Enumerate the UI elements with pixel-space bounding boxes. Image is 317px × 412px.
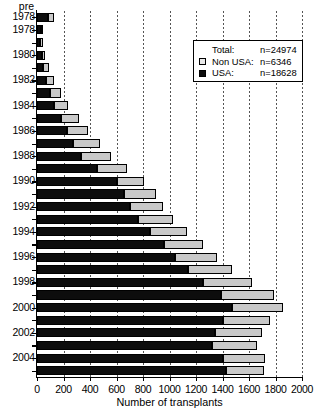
bar-segment-non-usa <box>223 354 265 363</box>
bar-segment-non-usa <box>54 101 68 110</box>
bar-row <box>37 253 302 262</box>
bar-segment-usa <box>37 316 223 325</box>
legend-value-total: n=24974 <box>260 44 297 56</box>
y-axis-label: 1978 <box>1 24 35 35</box>
y-axis-label: 1982 <box>1 74 35 85</box>
bar-segment-usa <box>37 202 130 211</box>
bar-row <box>37 227 302 236</box>
bar-row <box>37 290 302 299</box>
bar-segment-usa <box>37 253 175 262</box>
legend: Total: n=24974 Non USA: n=6346 USA: n=18… <box>193 40 303 82</box>
bar-row <box>37 303 302 312</box>
legend-row-non-usa: Non USA: n=6346 <box>198 56 298 68</box>
bar-segment-usa <box>37 265 188 274</box>
x-axis-tick <box>90 377 91 381</box>
y-axis-label: 2000 <box>1 302 35 313</box>
bar-segment-non-usa <box>124 189 155 198</box>
bar-segment-non-usa <box>215 328 261 337</box>
bar-segment-usa <box>37 139 73 148</box>
legend-label-total: Total: <box>212 44 234 56</box>
bar-segment-non-usa <box>67 126 88 135</box>
y-axis-tick <box>32 181 37 182</box>
legend-label-usa: USA: <box>212 67 234 79</box>
x-axis-tick <box>302 377 303 381</box>
bar-segment-non-usa <box>48 13 55 22</box>
bar-segment-non-usa <box>73 139 100 148</box>
bar-segment-usa <box>37 76 46 85</box>
bar-row <box>37 101 302 110</box>
legend-swatch-usa-icon <box>199 70 206 77</box>
x-axis-tick-label: 2000 <box>282 383 317 395</box>
y-axis-label: 1994 <box>1 226 35 237</box>
bar-row <box>37 25 302 34</box>
bar-segment-usa <box>37 366 226 375</box>
bar-segment-non-usa <box>138 215 174 224</box>
bar-row <box>37 215 302 224</box>
bar-row <box>37 202 302 211</box>
y-axis-label: 1992 <box>1 201 35 212</box>
bar-row <box>37 177 302 186</box>
y-axis-tick <box>32 333 37 334</box>
bar-segment-usa <box>37 114 61 123</box>
y-axis-tick <box>32 156 37 157</box>
bar-segment-non-usa <box>81 152 111 161</box>
x-axis-tick <box>64 377 65 381</box>
bar-segment-non-usa <box>46 76 54 85</box>
bar-segment-non-usa <box>41 25 43 34</box>
legend-row-usa: USA: n=18628 <box>198 67 298 79</box>
y-axis-tick <box>32 207 37 208</box>
bar-row <box>37 164 302 173</box>
bar-segment-usa <box>37 341 212 350</box>
bar-segment-non-usa <box>221 290 273 299</box>
bar-segment-non-usa <box>40 38 42 47</box>
bar-segment-usa <box>37 227 150 236</box>
y-axis-label: 2004 <box>1 352 35 363</box>
bar-row <box>37 189 302 198</box>
bar-row <box>37 265 302 274</box>
bar-segment-non-usa <box>130 202 163 211</box>
y-axis-tick <box>32 118 37 119</box>
bar-segment-usa <box>37 215 138 224</box>
bar-segment-usa <box>37 126 67 135</box>
y-axis-tick <box>32 30 37 31</box>
bar-segment-usa <box>37 278 203 287</box>
y-axis-tick <box>32 93 37 94</box>
x-axis-tick <box>196 377 197 381</box>
bar-segment-non-usa <box>150 227 187 236</box>
y-axis-tick <box>32 308 37 309</box>
bar-segment-usa <box>37 303 232 312</box>
y-axis-tick <box>32 345 37 346</box>
x-axis-tick <box>117 377 118 381</box>
bar-row <box>37 328 302 337</box>
y-axis-tick <box>32 358 37 359</box>
y-axis-tick <box>32 55 37 56</box>
bar-segment-usa <box>37 13 48 22</box>
y-axis-tick <box>32 144 37 145</box>
bar-segment-usa <box>37 240 164 249</box>
bar-row <box>37 114 302 123</box>
x-axis-tick <box>223 377 224 381</box>
bar-segment-non-usa <box>117 177 145 186</box>
legend-swatch-non-usa-icon <box>199 58 206 65</box>
y-axis-tick <box>32 295 37 296</box>
x-axis-tick <box>170 377 171 381</box>
bar-segment-non-usa <box>188 265 232 274</box>
y-axis-label: 1988 <box>1 150 35 161</box>
bar-row <box>37 13 302 22</box>
y-axis-tick <box>32 131 37 132</box>
bar-segment-usa <box>37 189 124 198</box>
bar-row <box>37 139 302 148</box>
legend-row-total: Total: n=24974 <box>198 44 298 56</box>
bar-segment-usa <box>37 290 221 299</box>
y-axis-tick <box>32 270 37 271</box>
bar-segment-non-usa <box>164 240 204 249</box>
y-axis-label: 1998 <box>1 276 35 287</box>
bar-row <box>37 278 302 287</box>
y-axis-tick <box>32 68 37 69</box>
bar-segment-usa <box>37 328 215 337</box>
bar-segment-non-usa <box>175 253 217 262</box>
legend-value-usa: n=18628 <box>260 67 297 79</box>
bar-row <box>37 366 302 375</box>
y-axis-tick <box>32 169 37 170</box>
y-axis-label: 1980 <box>1 49 35 60</box>
